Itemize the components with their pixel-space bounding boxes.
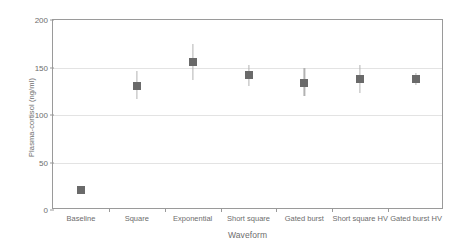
y-tick-mark [50, 115, 54, 116]
x-tick-mark [332, 208, 333, 212]
data-point-marker [133, 82, 141, 90]
x-tick-label: Gated burst HV [390, 214, 442, 223]
chart-container: Plasma-cortisol (ng/ml) 050100150200 Bas… [0, 0, 458, 251]
y-tick-label: 200 [35, 16, 48, 25]
plot-area: 050100150200 BaselineSquareExponentialSh… [52, 19, 443, 209]
x-tick-label: Exponential [173, 214, 212, 223]
gridline [53, 115, 442, 116]
x-axis-title: Waveform [52, 230, 443, 240]
y-tick-mark [50, 67, 54, 68]
data-point-marker [412, 75, 420, 83]
y-tick-mark [50, 162, 54, 163]
x-tick-mark [221, 208, 222, 212]
x-tick-label: Square [125, 214, 149, 223]
x-tick-mark [109, 208, 110, 212]
y-tick-label: 50 [39, 158, 48, 167]
x-tick-mark [388, 208, 389, 212]
data-point-marker [300, 79, 308, 87]
x-tick-mark [165, 208, 166, 212]
x-tick-label: Short square [227, 214, 270, 223]
y-tick-label: 100 [35, 111, 48, 120]
x-tick-mark [276, 208, 277, 212]
y-tick-mark [50, 20, 54, 21]
y-tick-mark [50, 210, 54, 211]
gridline [53, 163, 442, 164]
data-point-marker [356, 75, 364, 83]
data-point-marker [245, 71, 253, 79]
y-tick-label: 0 [44, 206, 48, 215]
x-tick-label: Baseline [67, 214, 96, 223]
data-point-marker [77, 186, 85, 194]
x-tick-label: Short square HV [332, 214, 387, 223]
data-point-marker [189, 58, 197, 66]
y-tick-label: 150 [35, 63, 48, 72]
x-tick-label: Gated burst [285, 214, 324, 223]
